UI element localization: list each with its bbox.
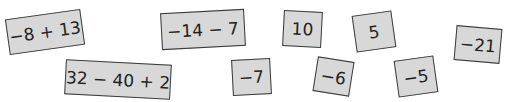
value-card[interactable]: −7: [231, 58, 272, 96]
card-text: 32 − 40 + 2: [65, 67, 170, 92]
card-text: −6: [320, 65, 348, 89]
value-card[interactable]: 5: [352, 10, 397, 52]
value-card[interactable]: −21: [454, 25, 503, 64]
card-text: −21: [459, 33, 496, 56]
expression-card[interactable]: −8 + 13: [5, 9, 85, 55]
card-text: 10: [291, 18, 314, 39]
value-card[interactable]: −6: [312, 56, 354, 96]
card-text: −5: [402, 65, 430, 88]
expression-card[interactable]: 32 − 40 + 2: [64, 59, 172, 99]
card-text: −8 + 13: [8, 17, 82, 47]
card-text: −14 − 7: [167, 18, 240, 42]
expression-card[interactable]: −14 − 7: [160, 9, 246, 50]
card-text: −7: [238, 66, 264, 87]
value-card[interactable]: −5: [394, 55, 439, 97]
value-card[interactable]: 10: [282, 10, 323, 48]
card-text: 5: [367, 21, 381, 42]
